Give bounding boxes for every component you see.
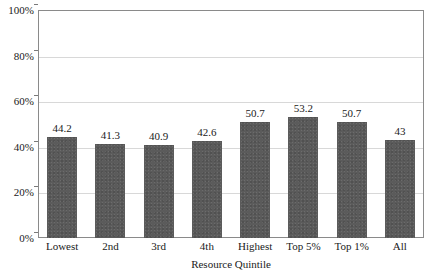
x-tick-label: 3rd bbox=[151, 241, 166, 252]
x-tick-label: All bbox=[393, 241, 407, 252]
bar[interactable] bbox=[288, 117, 318, 238]
y-tick-label: 0% bbox=[19, 232, 34, 244]
bar-value-label: 42.6 bbox=[197, 127, 216, 138]
bar-value-label: 40.9 bbox=[149, 131, 168, 142]
x-axis: Lowest2nd3rd4thHighestTop 5%Top 1%All bbox=[38, 241, 424, 257]
bar[interactable] bbox=[337, 122, 367, 238]
bar[interactable] bbox=[192, 141, 222, 238]
bar-slot: 44.2 bbox=[38, 10, 86, 238]
bar-value-label: 50.7 bbox=[246, 108, 265, 119]
y-tick-40: 40% bbox=[0, 141, 34, 153]
y-tick-20: 20% bbox=[0, 186, 34, 198]
bar-slot: 50.7 bbox=[231, 10, 279, 238]
bar-value-label: 53.2 bbox=[294, 103, 313, 114]
y-tick-0: 0% bbox=[0, 232, 34, 244]
y-tick-100: 100% bbox=[0, 4, 34, 16]
bar-slot: 50.7 bbox=[328, 10, 376, 238]
bar[interactable] bbox=[47, 137, 77, 238]
y-tick-label: 20% bbox=[14, 186, 34, 198]
y-tick-80: 80% bbox=[0, 50, 34, 62]
bar-value-label: 44.2 bbox=[53, 123, 72, 134]
bar-slot: 53.2 bbox=[279, 10, 327, 238]
bar[interactable] bbox=[240, 122, 270, 238]
bar-value-label: 43 bbox=[394, 126, 405, 137]
bar-slot: 40.9 bbox=[135, 10, 183, 238]
bar[interactable] bbox=[144, 145, 174, 238]
y-tick-label: 100% bbox=[8, 4, 34, 16]
y-tick-60: 60% bbox=[0, 95, 34, 107]
bar[interactable] bbox=[385, 140, 415, 238]
x-tick-label: 4th bbox=[200, 241, 214, 252]
bar-slot: 41.3 bbox=[86, 10, 134, 238]
bars-group: 44.241.340.942.650.753.250.743 bbox=[38, 10, 424, 238]
bar-value-label: 50.7 bbox=[342, 108, 361, 119]
x-tick-label: Highest bbox=[238, 241, 272, 252]
x-tick-label: Top 1% bbox=[334, 241, 368, 252]
x-axis-title: Resource Quintile bbox=[38, 259, 424, 270]
x-tick-label: 2nd bbox=[102, 241, 119, 252]
y-tick-label: 80% bbox=[14, 50, 34, 62]
bar-value-label: 41.3 bbox=[101, 130, 120, 141]
bar[interactable] bbox=[95, 144, 125, 238]
y-tick-label: 60% bbox=[14, 95, 34, 107]
x-tick-label: Lowest bbox=[46, 241, 78, 252]
x-tick-label: Top 5% bbox=[286, 241, 320, 252]
bar-slot: 42.6 bbox=[183, 10, 231, 238]
bar-slot: 43 bbox=[376, 10, 424, 238]
y-tick-mark bbox=[34, 4, 38, 5]
bar-chart: 100% 80% 60% 40% 20% 0% 44.241.340.942.6… bbox=[0, 0, 432, 276]
y-tick-label: 40% bbox=[14, 141, 34, 153]
